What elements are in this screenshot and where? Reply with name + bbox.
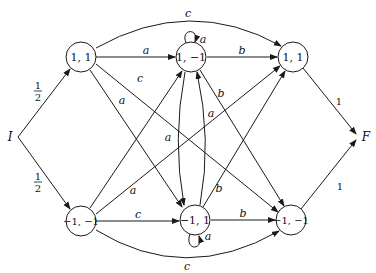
edge-label: b (217, 87, 224, 100)
node-n1: 1, 1 (66, 42, 96, 72)
edge-label: b (215, 182, 222, 195)
node-label: 1, 1 (283, 51, 304, 64)
node-n3: 1, 1 (278, 42, 308, 72)
node-n2: 1, −1 (176, 42, 206, 72)
svg-text:1: 1 (35, 171, 41, 182)
svg-text:2: 2 (35, 183, 41, 194)
automaton-diagram: 1, 1 1, −1 1, 1 −1, −1 −1, 1 −1, −1 I F … (0, 0, 376, 273)
svg-text:2: 2 (35, 92, 41, 103)
edge-n1-n6-c (96, 64, 278, 212)
node-label: 1, −1 (176, 51, 206, 64)
edge-label: c (135, 208, 141, 221)
node-n6: −1, −1 (273, 205, 309, 235)
edge-label: a (208, 107, 215, 120)
edge-n3-to-F (303, 68, 356, 134)
node-label: −1, −1 (63, 216, 99, 227)
initial-weight-top: 1 2 (34, 80, 42, 103)
edge-I-to-n1 (18, 69, 70, 137)
edge-I-to-n4 (18, 137, 70, 209)
edge-n5-self-a (189, 234, 200, 247)
edge-label: a (205, 230, 212, 243)
initial-weight-bottom: 1 2 (34, 171, 42, 194)
svg-text:1: 1 (35, 80, 41, 91)
edge-label: a (165, 131, 172, 144)
edge-label: c (185, 7, 191, 20)
final-edges (301, 68, 356, 209)
edge-label: c (184, 260, 190, 273)
edge-label: b (239, 207, 246, 220)
node-n4: −1, −1 (63, 206, 99, 236)
edge-label: a (130, 184, 137, 197)
edge-n2-n6-b (200, 70, 284, 206)
edge-n4-n6-c (96, 230, 279, 258)
node-label: 1, 1 (71, 51, 92, 64)
initial-edges (18, 69, 70, 209)
edge-label: a (200, 33, 207, 46)
edge-n5-n2-a (197, 72, 205, 205)
initial-label: I (7, 130, 13, 144)
edge-n6-to-F (301, 140, 356, 209)
edge-n2-n5-a (178, 72, 185, 205)
edge-label: a (143, 44, 150, 57)
edge-n2-self-a (185, 32, 196, 43)
edge-label: c (137, 72, 143, 85)
final-weight-bottom: 1 (337, 181, 343, 192)
final-label: F (361, 130, 371, 144)
node-label: −1, 1 (180, 214, 210, 227)
final-weight-top: 1 (336, 96, 342, 107)
node-label: −1, −1 (273, 215, 309, 226)
edge-label: b (238, 44, 245, 57)
edge-label: a (119, 94, 126, 107)
